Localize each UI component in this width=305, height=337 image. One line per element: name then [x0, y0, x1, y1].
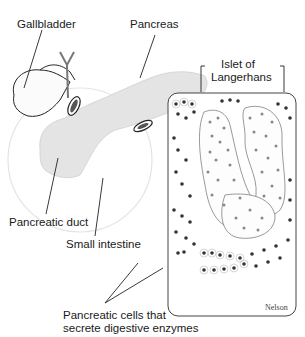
illustrator-credit: Nelson — [265, 303, 288, 312]
label-pancreatic-duct: Pancreatic duct — [9, 216, 88, 229]
label-acinar-line1: Pancreatic cells that — [63, 309, 166, 322]
label-islet-line2: Langerhans — [211, 71, 272, 84]
label-pancreas: Pancreas — [130, 18, 179, 31]
label-islet-line1: Islet of — [221, 58, 255, 71]
label-small-intestine: Small intestine — [66, 238, 141, 251]
pancreas-diagram — [0, 0, 305, 337]
label-gallbladder: Gallbladder — [17, 18, 76, 31]
label-acinar-line2: secrete digestive enzymes — [63, 322, 199, 335]
gallbladder-shape — [13, 70, 70, 117]
